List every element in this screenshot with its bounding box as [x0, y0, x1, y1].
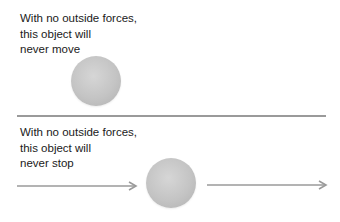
section-divider — [17, 115, 326, 117]
caption-line: With no outside forces, — [20, 125, 137, 141]
caption-line: this object will — [20, 27, 137, 43]
arrow-right-icon — [17, 180, 139, 192]
caption-line: never stop — [20, 156, 137, 172]
moving-ball — [146, 158, 196, 208]
caption-stationary: With no outside forces, this object will… — [20, 11, 137, 58]
caption-line: this object will — [20, 141, 137, 157]
stationary-ball — [71, 56, 121, 106]
arrow-right-icon — [207, 179, 329, 191]
caption-line: never move — [20, 42, 137, 58]
caption-line: With no outside forces, — [20, 11, 137, 27]
caption-moving: With no outside forces, this object will… — [20, 125, 137, 172]
